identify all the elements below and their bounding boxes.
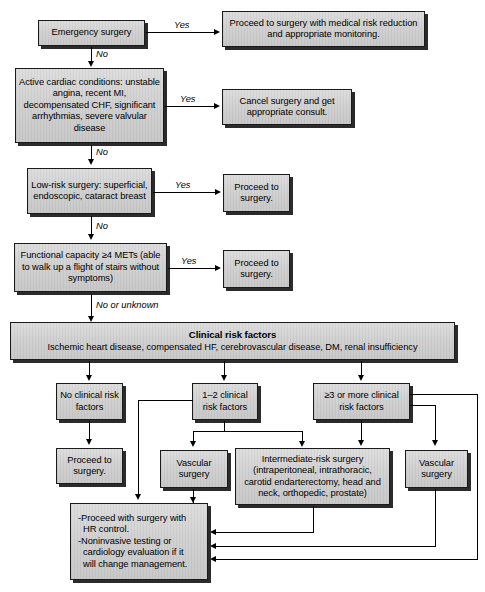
edge-three-to-right-vascular-v: [435, 405, 436, 442]
arrowhead-one-two-to-intermediate: [299, 441, 305, 447]
edge-emergency-yes: [146, 32, 216, 33]
arrowhead-vascular-right-to-final: [210, 543, 216, 549]
node-cancel-surgery[interactable]: Cancel surgery and get appropriate consu…: [222, 89, 352, 125]
node-final-management[interactable]: -Proceed with surgery with HR control. -…: [70, 503, 208, 580]
final-management-line-3: -Noninvasive testing or: [78, 536, 200, 547]
clinical-risk-factors-title: Clinical risk factors: [189, 329, 276, 341]
node-low-risk-surgery[interactable]: Low-risk surgery: superficial, endoscopi…: [27, 168, 152, 214]
edge-label-yes-1: Yes: [174, 20, 190, 30]
node-clinical-risk-factors-banner[interactable]: Clinical risk factors Ischemic heart dis…: [10, 322, 455, 360]
edge-three-to-right-vascular-h: [410, 405, 436, 406]
node-vascular-surgery-middle-label: Vascular surgery: [164, 458, 224, 481]
edge-lowrisk-no: [91, 216, 92, 236]
arrowhead-one-two-bypass: [135, 494, 141, 500]
node-functional-capacity[interactable]: Functional capacity ≥4 METs (able to wal…: [14, 243, 167, 292]
node-no-clinical-risk-factors-label: No clinical risk factors: [60, 390, 119, 413]
node-active-cardiac-conditions[interactable]: Active cardiac conditions: unstable angi…: [15, 68, 164, 143]
arrowhead-intermediate-to-final: [210, 529, 216, 535]
final-management-line-2: HR control.: [78, 524, 200, 535]
edge-cardiac-yes: [165, 106, 216, 107]
edge-one-two-bypass-vertical: [138, 400, 139, 495]
arrowhead-one-two-to-vascular: [190, 441, 196, 447]
node-cancel-surgery-label: Cancel surgery and get appropriate consu…: [226, 96, 348, 119]
arrowhead-lowrisk-no: [88, 234, 94, 240]
node-proceed-to-surgery-2[interactable]: Proceed to surgery.: [223, 250, 290, 288]
node-intermediate-risk-surgery-label: Intermediate-risk surgery (intraperitone…: [239, 454, 386, 500]
node-three-or-more-clinical-risk-factors[interactable]: ≥3 or more clinical risk factors: [313, 383, 410, 420]
arrowhead-cardiac-yes: [214, 103, 220, 109]
arrowhead-three-far-bypass: [210, 556, 216, 562]
arrowhead-emergency-yes: [214, 29, 220, 35]
node-proceed-to-surgery-1[interactable]: Proceed to surgery.: [223, 174, 290, 212]
edge-vascular-right-to-final-v: [435, 489, 436, 547]
edge-label-yes-4: Yes: [181, 256, 197, 266]
arrowhead-three-to-intermediate: [358, 440, 364, 446]
final-management-line-4: cardiology evaluation if it: [78, 547, 200, 558]
node-emergency-surgery-label: Emergency surgery: [52, 27, 132, 38]
flowchart-canvas: Emergency surgery Proceed to surgery wit…: [0, 0, 485, 592]
edge-label-yes-2: Yes: [180, 94, 196, 104]
arrowhead-banner-to-one-two: [221, 375, 227, 381]
node-proceed-to-surgery-3[interactable]: Proceed to surgery.: [56, 448, 123, 484]
node-proceed-to-surgery-2-label: Proceed to surgery.: [227, 258, 286, 281]
node-proceed-to-surgery-1-label: Proceed to surgery.: [227, 182, 286, 205]
final-management-line-5: will change management.: [78, 559, 200, 570]
final-management-text: -Proceed with surgery with HR control. -…: [78, 513, 200, 570]
node-proceed-to-surgery-3-label: Proceed to surgery.: [60, 455, 119, 478]
arrowhead-banner-to-three-or-more: [358, 375, 364, 381]
arrowhead-three-to-right-vascular: [432, 440, 438, 446]
edge-label-no-or-unknown: No or unknown: [96, 300, 159, 310]
edge-functional-no-or-unknown: [91, 294, 92, 318]
edge-three-far-bypass-h2: [216, 559, 478, 560]
arrowhead-functional-yes: [215, 265, 221, 271]
edge-intermediate-to-final-v: [313, 506, 314, 533]
arrowhead-no-risk-to-proceed: [86, 439, 92, 445]
node-no-clinical-risk-factors[interactable]: No clinical risk factors: [56, 383, 123, 420]
edge-three-to-intermediate: [361, 421, 362, 442]
edge-label-no-3: No: [96, 221, 108, 231]
edge-label-no-1: No: [96, 49, 108, 59]
node-vascular-surgery-right[interactable]: Vascular surgery: [405, 450, 468, 488]
node-active-cardiac-conditions-label: Active cardiac conditions: unstable angi…: [19, 77, 160, 134]
node-proceed-medical-risk-label: Proceed to surgery with medical risk red…: [226, 18, 421, 41]
node-three-or-more-clinical-risk-factors-label: ≥3 or more clinical risk factors: [317, 390, 406, 413]
edge-lowrisk-yes: [153, 192, 217, 193]
edge-label-no-2: No: [96, 147, 108, 157]
edge-one-two-bypass-horizontal: [138, 400, 193, 401]
node-one-two-clinical-risk-factors[interactable]: 1–2 clinical risk factors: [192, 383, 258, 420]
edge-one-two-split-bar: [193, 431, 303, 432]
edge-label-yes-3: Yes: [175, 180, 191, 190]
arrowhead-banner-to-no-risk: [86, 375, 92, 381]
node-low-risk-surgery-label: Low-risk surgery: superficial, endoscopi…: [31, 180, 148, 203]
node-vascular-surgery-right-label: Vascular surgery: [409, 458, 464, 481]
node-proceed-medical-risk[interactable]: Proceed to surgery with medical risk red…: [222, 11, 425, 47]
arrowhead-lowrisk-yes: [215, 189, 221, 195]
edge-three-far-bypass-v: [477, 394, 478, 560]
node-emergency-surgery[interactable]: Emergency surgery: [38, 20, 145, 46]
node-intermediate-risk-surgery[interactable]: Intermediate-risk surgery (intraperitone…: [235, 448, 390, 505]
edge-vascular-right-to-final-h: [216, 546, 436, 547]
node-vascular-surgery-middle[interactable]: Vascular surgery: [160, 450, 228, 488]
node-functional-capacity-label: Functional capacity ≥4 METs (able to wal…: [18, 250, 163, 284]
arrowhead-cardiac-no: [88, 159, 94, 165]
edge-functional-yes: [168, 268, 217, 269]
arrowhead-emergency-no: [88, 61, 94, 67]
edge-intermediate-to-final-h: [216, 532, 314, 533]
final-management-line-1: -Proceed with surgery with: [78, 513, 200, 524]
clinical-risk-factors-subtitle: Ischemic heart disease, compensated HF, …: [47, 341, 417, 353]
node-one-two-clinical-risk-factors-label: 1–2 clinical risk factors: [196, 390, 254, 413]
edge-three-far-bypass-h: [410, 394, 478, 395]
edge-no-risk-to-proceed: [89, 421, 90, 441]
